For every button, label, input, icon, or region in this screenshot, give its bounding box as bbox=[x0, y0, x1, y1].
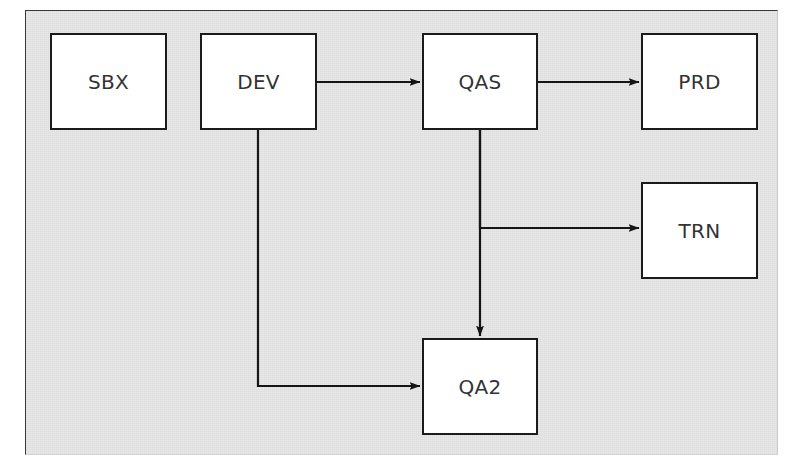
node-dev[interactable]: DEV bbox=[200, 33, 317, 130]
node-qa2[interactable]: QA2 bbox=[422, 338, 538, 435]
node-qa2-label: QA2 bbox=[458, 377, 501, 397]
node-dev-label: DEV bbox=[237, 72, 280, 92]
node-trn[interactable]: TRN bbox=[641, 182, 758, 279]
node-sbx[interactable]: SBX bbox=[50, 33, 167, 130]
node-prd-label: PRD bbox=[678, 72, 720, 92]
node-qas[interactable]: QAS bbox=[422, 33, 538, 130]
node-prd[interactable]: PRD bbox=[641, 33, 758, 130]
node-sbx-label: SBX bbox=[88, 72, 129, 92]
node-trn-label: TRN bbox=[679, 221, 721, 241]
node-qas-label: QAS bbox=[458, 72, 501, 92]
diagram-canvas: SBX DEV QAS PRD TRN QA2 bbox=[0, 0, 802, 470]
